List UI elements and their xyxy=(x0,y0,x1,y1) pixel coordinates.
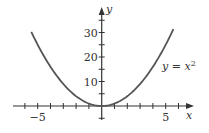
curve-label: y = x2 xyxy=(161,59,196,73)
y-tick-label: 20 xyxy=(84,51,98,64)
chart: −55102030xyy = x2 xyxy=(0,0,209,133)
x-tick-label: 5 xyxy=(162,111,169,124)
x-axis-label: x xyxy=(186,109,193,122)
y-axis-arrow-icon xyxy=(99,7,105,15)
parabola-curve xyxy=(31,29,173,106)
y-tick-label: 10 xyxy=(84,76,98,89)
y-tick-label: 30 xyxy=(84,27,98,40)
x-tick-label: −5 xyxy=(30,111,46,124)
y-axis-label: y xyxy=(105,3,113,16)
parabola-plot: −55102030xyy = x2 xyxy=(0,0,209,133)
